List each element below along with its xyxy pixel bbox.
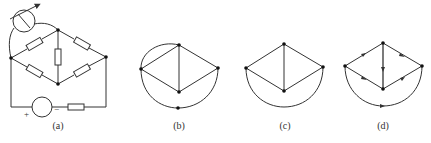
meter-wire-right: [34, 23, 58, 30]
resistor-top-right: [58, 30, 106, 57]
resistor-series: [68, 104, 84, 110]
voltage-source-icon: [32, 97, 52, 117]
panel-b-graph: [141, 44, 218, 108]
panel-d-label: (d): [377, 120, 389, 131]
arrow-icon: [380, 104, 385, 108]
circuit-graph-figure: [0, 0, 431, 143]
meter-icon: [10, 5, 38, 32]
meter-wire-left: [9, 28, 14, 58]
source-plus-sign: +: [24, 109, 29, 119]
panel-c-label: (c): [279, 120, 290, 131]
source-minus-sign: −: [54, 104, 59, 114]
arrow-icon: [400, 77, 405, 81]
resistor-left-top: [11, 30, 58, 58]
resistor-vertical: [55, 30, 61, 84]
panel-d-directed-graph: [345, 43, 422, 106]
arrow-icon: [361, 76, 367, 80]
arrow-icon: [381, 67, 385, 72]
panel-c-graph: [246, 44, 323, 107]
resistor-bottom-right: [58, 57, 106, 84]
panel-a-circuit: [9, 5, 106, 117]
resistor-left-bottom: [11, 58, 58, 84]
panel-a-label: (a): [52, 120, 63, 131]
panel-b-label: (b): [173, 120, 185, 131]
